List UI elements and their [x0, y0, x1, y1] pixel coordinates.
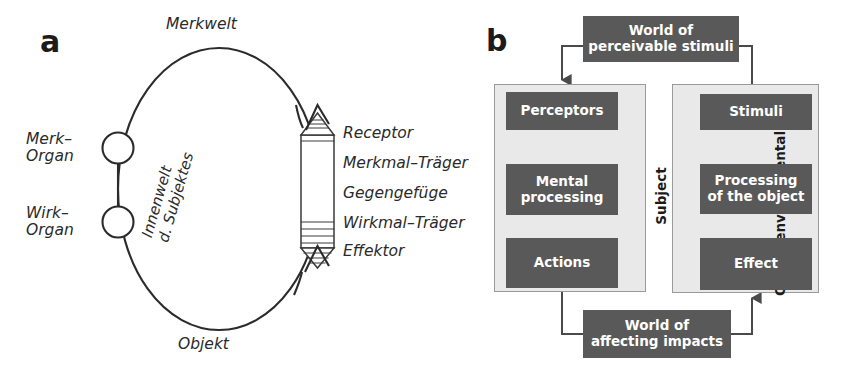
subject-container-label: Subject: [653, 167, 669, 224]
link-subject-to-bottom: [562, 292, 583, 334]
label-objekt: Objekt: [178, 336, 229, 353]
figure-root: a: [0, 0, 844, 382]
link-top-to-subject: [562, 46, 583, 80]
box-perceptors: Perceptors: [506, 92, 618, 130]
link-bottom-to-object: [731, 298, 752, 334]
label-wirkmal-traeger: Wirkmal–Träger: [343, 214, 465, 232]
box-effect: Effect: [700, 238, 812, 290]
functional-circle-ellipse: [118, 48, 320, 330]
label-merk-organ: Merk– Organ: [26, 131, 74, 166]
label-receptor: Receptor: [343, 124, 413, 142]
box-world-of-perceivable-stimuli: World of perceivable stimuli: [583, 16, 739, 62]
label-gegengefuege: Gegengefüge: [343, 184, 448, 202]
merk-organ-circle: [103, 133, 134, 164]
panel-b-letter: b: [486, 26, 507, 56]
label-merkwelt: Merkwelt: [166, 16, 237, 33]
box-actions: Actions: [506, 238, 618, 288]
box-world-of-affecting-impacts: World of affecting impacts: [583, 310, 731, 358]
label-effektor: Effektor: [343, 242, 404, 260]
box-mental-processing: Mental processing: [506, 164, 618, 215]
wirk-organ-circle: [103, 207, 134, 238]
box-processing-of-the-object: Processing of the object: [700, 164, 812, 214]
label-wirk-organ: Wirk– Organ: [26, 205, 74, 240]
link-object-to-top: [739, 46, 752, 84]
label-merkmal-traeger: Merkmal–Träger: [343, 154, 468, 172]
box-stimuli: Stimuli: [700, 94, 812, 130]
